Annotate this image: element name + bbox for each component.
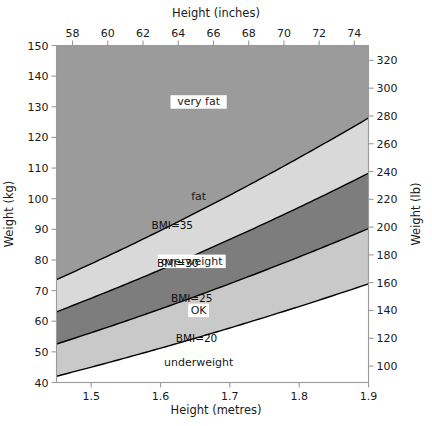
band-label-very-fat: very fat: [171, 95, 227, 109]
bmi-line-label-25-text: BMI=25: [171, 292, 213, 304]
y-tick-label-140: 140: [28, 70, 49, 83]
bmi-chart-svg: 1.51.61.71.81.95860626466687072741501401…: [0, 0, 432, 426]
y-tick-label-60: 60: [35, 315, 49, 328]
bmi-line-label-35-text: BMI=35: [152, 219, 194, 231]
y-axis-title: Weight (kg): [2, 181, 16, 248]
x2-axis-title: Height (inches): [172, 6, 260, 20]
bmi-line-label-20-text: BMI=20: [176, 332, 218, 344]
y-tick-label-130: 130: [28, 101, 49, 114]
y2-tick-label-100: 100: [377, 360, 398, 373]
bmi-line-label-25: BMI=25: [171, 292, 213, 305]
y-tick-label-70: 70: [35, 285, 49, 298]
x-tick-label-1.7: 1.7: [221, 390, 239, 403]
band-label-very-fat-text: very fat: [177, 95, 220, 108]
y-tick-label-90: 90: [35, 223, 49, 236]
band-label-ok-text: OK: [191, 304, 208, 317]
band-label-ok: OK: [188, 304, 209, 318]
y2-tick-label-280: 280: [377, 110, 398, 123]
y2-tick-label-140: 140: [377, 304, 398, 317]
y-tick-label-150: 150: [28, 40, 49, 53]
x2-tick-label-60: 60: [101, 27, 115, 40]
x2-tick-label-66: 66: [206, 27, 220, 40]
y2-tick-label-240: 240: [377, 166, 398, 179]
band-label-fat: fat: [191, 190, 207, 203]
y2-tick-label-320: 320: [377, 54, 398, 67]
x2-tick-label-58: 58: [66, 27, 80, 40]
y2-tick-label-160: 160: [377, 277, 398, 290]
x-axis-title: Height (metres): [171, 403, 262, 417]
y-tick-label-80: 80: [35, 254, 49, 267]
x-tick-label-1.9: 1.9: [360, 390, 378, 403]
bmi-line-label-30: BMI=30: [157, 257, 199, 269]
band-label-underweight: underweight: [164, 356, 234, 369]
y2-axis-title: Weight (lb): [409, 182, 423, 245]
x2-tick-label-64: 64: [171, 27, 185, 40]
x-tick-label-1.5: 1.5: [82, 390, 100, 403]
x2-tick-label-70: 70: [277, 27, 291, 40]
y-tick-label-110: 110: [28, 162, 49, 175]
band-label-fat-text: fat: [191, 190, 207, 203]
x2-tick-label-74: 74: [347, 27, 361, 40]
x-tick-label-1.8: 1.8: [290, 390, 308, 403]
y2-tick-label-180: 180: [377, 249, 398, 262]
x-tick-label-1.6: 1.6: [152, 390, 170, 403]
y2-tick-label-200: 200: [377, 221, 398, 234]
y-tick-label-100: 100: [28, 193, 49, 206]
y2-tick-label-300: 300: [377, 82, 398, 95]
x2-tick-label-72: 72: [312, 27, 326, 40]
y2-tick-label-120: 120: [377, 332, 398, 345]
y2-tick-label-220: 220: [377, 193, 398, 206]
y2-tick-label-260: 260: [377, 138, 398, 151]
bmi-chart: 1.51.61.71.81.95860626466687072741501401…: [0, 0, 432, 426]
y-tick-label-50: 50: [35, 346, 49, 359]
x2-tick-label-62: 62: [136, 27, 150, 40]
bmi-line-label-35: BMI=35: [152, 219, 194, 232]
y-tick-label-40: 40: [35, 377, 49, 390]
y-tick-label-120: 120: [28, 131, 49, 144]
bmi-line-label-30-text: BMI=30: [157, 257, 199, 269]
x2-tick-label-68: 68: [242, 27, 256, 40]
band-label-underweight-text: underweight: [164, 356, 234, 369]
bmi-line-label-20: BMI=20: [176, 332, 218, 344]
